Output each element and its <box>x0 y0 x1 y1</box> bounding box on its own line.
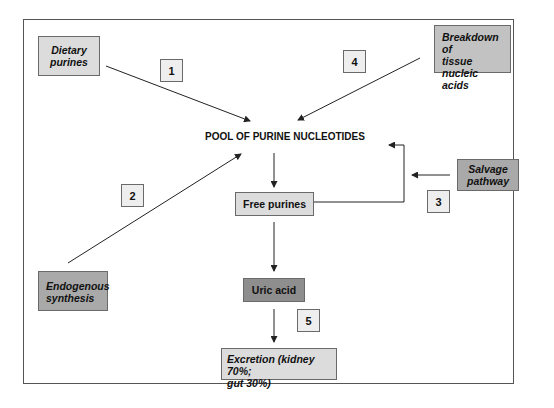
excretion-label-line2: gut 30%) <box>227 377 336 389</box>
pool-of-purine-nucleotides: POOL OF PURINE NUCLEOTIDES <box>195 131 375 142</box>
uric-acid-label: Uric acid <box>252 284 296 296</box>
breakdown-label-line2: tissue nucleic <box>442 55 510 79</box>
uric-acid-box: Uric acid <box>243 278 305 302</box>
salvage-label-line1: Salvage <box>468 163 508 175</box>
step-2-badge: 2 <box>121 184 144 207</box>
breakdown-tissue-box: Breakdown of tissue nucleic acids <box>434 25 511 73</box>
dietary-purines-box: Dietary purines <box>38 36 100 76</box>
step-3-badge: 3 <box>427 190 450 213</box>
breakdown-label-line1: Breakdown of <box>442 31 510 55</box>
dietary-label-line1: Dietary <box>51 44 87 56</box>
salvage-label-line2: pathway <box>467 175 509 187</box>
endogenous-label-line1: Endogenous <box>46 280 107 292</box>
endogenous-label-line2: synthesis <box>46 292 107 304</box>
dietary-label-line2: purines <box>50 56 88 68</box>
endogenous-synthesis-box: Endogenous synthesis <box>38 271 108 311</box>
excretion-label-line1: Excretion (kidney 70%; <box>227 353 336 377</box>
step-1-badge: 1 <box>160 59 183 82</box>
step-4-badge: 4 <box>343 50 366 73</box>
breakdown-label-line3: acids <box>442 79 510 91</box>
free-purines-label: Free purines <box>243 198 306 210</box>
step-5-badge: 5 <box>297 309 320 332</box>
salvage-pathway-box: Salvage pathway <box>457 159 519 191</box>
free-purines-box: Free purines <box>235 192 314 216</box>
excretion-box: Excretion (kidney 70%; gut 30%) <box>221 348 337 380</box>
